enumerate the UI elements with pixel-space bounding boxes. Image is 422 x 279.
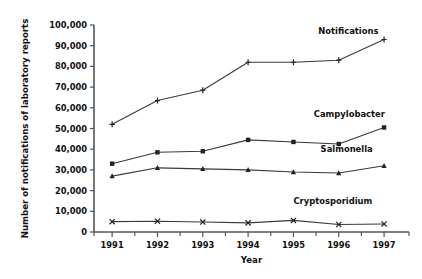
- data-point-marker: [336, 57, 341, 63]
- y-axis-tick-label: 10,000: [55, 206, 87, 216]
- data-point-marker: [200, 87, 205, 93]
- y-axis-tick-label: 80,000: [55, 61, 87, 71]
- line-chart: 010,00020,00030,00040,00050,00060,00070,…: [0, 0, 422, 279]
- series-cryptosporidium: Cryptosporidium: [110, 196, 387, 227]
- x-axis-tick-label: 1993: [191, 240, 214, 250]
- y-axis-tick-label: 40,000: [55, 144, 87, 154]
- chart-container: 010,00020,00030,00040,00050,00060,00070,…: [0, 0, 422, 279]
- data-point-marker: [246, 138, 250, 142]
- x-axis-title: Year: [240, 255, 263, 265]
- y-axis-tick-label: 60,000: [55, 103, 87, 113]
- y-axis-tick-label: 20,000: [55, 186, 87, 196]
- series-campylobacter: Campylobacter: [110, 109, 386, 166]
- x-axis-tick-label: 1991: [101, 240, 124, 250]
- series-label-salmonella: Salmonella: [321, 144, 373, 154]
- y-axis-tick-label: 90,000: [55, 41, 87, 51]
- y-axis-tick-label: 30,000: [55, 165, 87, 175]
- x-axis-tick-label: 1997: [373, 240, 396, 250]
- series-label-campylobacter: Campylobacter: [314, 109, 386, 119]
- data-point-marker: [110, 121, 115, 127]
- series-label-cryptosporidium: Cryptosporidium: [293, 196, 372, 206]
- data-point-marker: [381, 163, 386, 168]
- x-axis-tick-label: 1995: [282, 240, 305, 250]
- data-point-marker: [291, 59, 296, 65]
- y-axis-tick-label: 70,000: [55, 82, 87, 92]
- x-axis-tick-label: 1996: [327, 240, 350, 250]
- data-point-marker: [291, 140, 295, 144]
- x-axis-tick-label: 1992: [146, 240, 169, 250]
- data-point-marker: [381, 36, 386, 42]
- y-axis-tick-label: 100,000: [49, 20, 87, 30]
- x-axis-tick-label: 1994: [237, 240, 260, 250]
- series-salmonella: Salmonella: [110, 144, 387, 178]
- series-label-notifications: Notifications: [318, 26, 378, 36]
- data-point-marker: [201, 149, 205, 153]
- data-point-marker: [155, 98, 160, 104]
- y-axis-tick-label: 50,000: [55, 124, 87, 134]
- data-point-marker: [246, 59, 251, 65]
- data-point-marker: [155, 150, 159, 154]
- y-axis-title: Number of notifications of laboratory re…: [20, 19, 30, 239]
- data-point-marker: [110, 161, 114, 165]
- data-point-marker: [382, 125, 386, 129]
- y-axis-tick-label: 0: [81, 227, 87, 237]
